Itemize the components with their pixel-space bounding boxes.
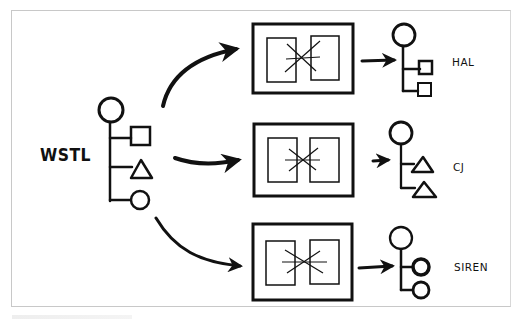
hal-child-square-icon [419, 61, 432, 74]
processor-box-1 [253, 24, 353, 93]
cj-child-triangle-icon [412, 157, 433, 172]
arrow-to-box-2-icon [175, 158, 238, 164]
arrow-to-cj-icon [373, 160, 388, 161]
hal-child-square-icon [418, 83, 431, 96]
target-label-hal: HAL [452, 56, 474, 68]
source-child-circle-icon [131, 191, 149, 209]
arrows-source [156, 49, 240, 266]
arrow-to-box-3-icon [156, 218, 240, 266]
siren-child-circle-icon [413, 282, 429, 298]
source-tree [99, 98, 152, 209]
merge-cross-icon [285, 148, 320, 171]
arrow-to-siren-icon [359, 266, 392, 268]
processor-box-2 [254, 124, 353, 196]
target-tree-hal [393, 24, 432, 96]
arrow-to-hal-icon [362, 60, 394, 61]
target-label-siren: SIREN [454, 261, 488, 273]
cj-root-circle-icon [390, 122, 412, 144]
merge-cross-icon [282, 250, 327, 273]
caption-cutoff [12, 315, 132, 319]
cj-child-triangle-icon [413, 182, 436, 197]
processor-box-3 [253, 224, 352, 300]
target-tree-cj [390, 122, 436, 197]
siren-root-circle-icon [390, 227, 412, 249]
source-root-circle-icon [99, 98, 123, 122]
arrows-targets [359, 60, 394, 268]
source-child-triangle-icon [131, 160, 152, 178]
merge-cross-icon [285, 41, 320, 72]
source-child-square-icon [131, 127, 150, 145]
source-label: WSTL [40, 145, 91, 165]
target-label-cj: CJ [453, 161, 464, 173]
arrow-to-box-1-icon [163, 49, 236, 106]
target-tree-siren [390, 227, 429, 298]
hal-root-circle-icon [393, 24, 415, 46]
siren-child-circle-icon [413, 259, 429, 275]
